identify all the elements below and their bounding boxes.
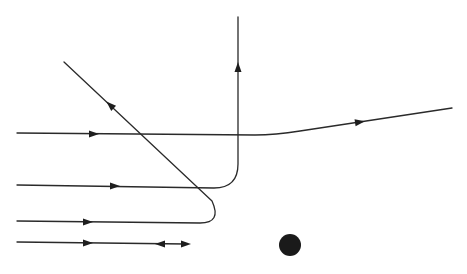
arrowhead-icon	[355, 118, 366, 126]
arrowhead-icon	[110, 183, 120, 190]
trajectory-line	[17, 62, 215, 223]
trajectory-right-angle	[17, 17, 242, 190]
arrowhead-icon	[235, 62, 242, 72]
arrowhead-icon	[83, 219, 93, 226]
arrowhead-icon	[83, 240, 93, 247]
trajectory-back-scatter	[17, 62, 215, 226]
arrowhead-icon	[181, 241, 191, 248]
arrowhead-icon	[89, 131, 99, 138]
scattering-diagram	[0, 0, 467, 274]
scattering-center-dot	[279, 234, 301, 256]
trajectory-large-impact-parameter	[17, 108, 452, 138]
trajectory-line	[17, 17, 238, 188]
arrowhead-icon	[155, 241, 165, 248]
trajectory-line	[17, 108, 452, 135]
trajectories	[17, 17, 452, 248]
trajectory-head-on	[17, 240, 191, 248]
